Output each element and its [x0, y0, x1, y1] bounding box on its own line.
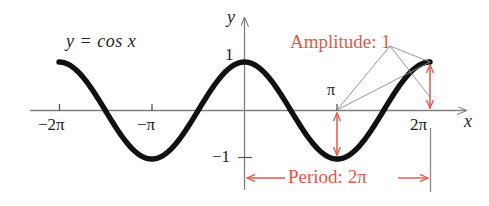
x-tick-label-two-pi: 2π — [410, 116, 427, 133]
y-tick-label-one: 1 — [225, 46, 234, 63]
x-tick-label-pi: π — [327, 82, 335, 98]
amplitude-leader-diagonal — [337, 62, 430, 110]
y-tick-label-neg-one: −1 — [212, 148, 230, 165]
y-axis-label: y — [227, 8, 235, 26]
function-label: y = cos x — [66, 32, 136, 50]
x-axis-label: x — [464, 112, 472, 130]
period-annotation-label: Period: 2π — [288, 167, 367, 186]
amplitude-leader-left — [337, 46, 430, 110]
amplitude-annotation-label: Amplitude: 1 — [290, 32, 391, 51]
x-tick-label-neg-two-pi: −2π — [38, 116, 65, 133]
x-tick-label-neg-pi: −π — [137, 116, 155, 133]
cosine-graph-figure: y = cos x y x −2π −π π 2π 1 −1 Amplitude… — [0, 0, 489, 206]
